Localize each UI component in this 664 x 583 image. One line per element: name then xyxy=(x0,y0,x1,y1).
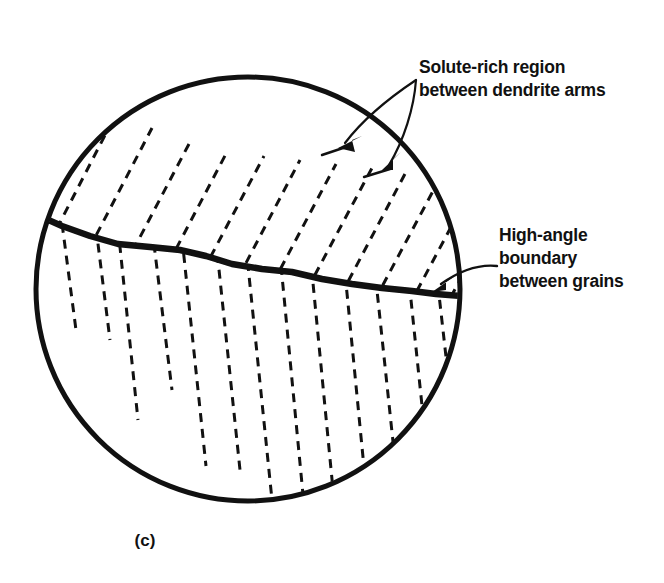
solute-rich-leader-line-1 xyxy=(345,80,416,143)
upper-grain-dendrite-lines xyxy=(20,110,508,396)
dendrite-line xyxy=(118,228,138,420)
annotation-high-angle-line-2: boundary xyxy=(499,247,624,270)
dendrite-line xyxy=(150,212,172,390)
dendrite-line xyxy=(92,196,110,340)
dendrite-line xyxy=(182,238,206,466)
annotation-solute-rich-line-1: Solute-rich region xyxy=(419,56,605,79)
figure-caption: (c) xyxy=(0,531,290,551)
arrowhead-icon xyxy=(432,276,455,292)
annotation-solute-rich-line-2: between dendrite arms xyxy=(419,79,605,102)
dendrite-line xyxy=(52,128,152,320)
annotation-solute-rich-region: Solute-rich region between dendrite arms xyxy=(419,56,605,102)
arrowhead-icon xyxy=(382,152,401,170)
annotation-high-angle-line-1: High-angle xyxy=(499,224,624,247)
figure-root: Solute-rich region between dendrite arms… xyxy=(0,0,664,583)
dendrite-line xyxy=(374,262,396,470)
dendrite-line xyxy=(342,242,366,488)
dendrite-line xyxy=(246,246,272,500)
annotation-high-angle-line-3: between grains xyxy=(499,270,624,293)
dendrite-line xyxy=(310,252,334,500)
annotation-high-angle-boundary: High-angle boundary between grains xyxy=(499,224,624,293)
arrow-tail xyxy=(322,147,346,155)
solute-rich-arrow-tails xyxy=(322,147,390,177)
high-angle-leader-line xyxy=(441,266,497,284)
